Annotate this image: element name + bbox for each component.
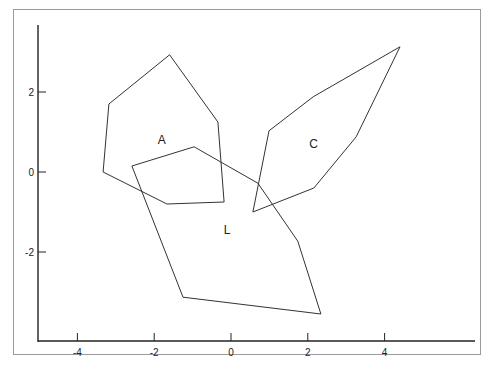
x-tick-label: 0 — [228, 347, 234, 358]
x-ticks: -4-2024 — [73, 333, 388, 358]
polygon-label-A: A — [158, 133, 166, 147]
y-tick-label: 2 — [28, 87, 34, 98]
y-tick-label: -2 — [25, 247, 34, 258]
x-tick-label: 2 — [305, 347, 311, 358]
polygon-label-L: L — [224, 223, 231, 237]
x-tick-label: -2 — [150, 347, 159, 358]
polygon-C — [253, 47, 400, 212]
x-tick-label: 4 — [382, 347, 388, 358]
x-tick-label: -4 — [73, 347, 82, 358]
polygon-chart: -4-2024 -202 A L C — [0, 0, 503, 383]
y-ticks: -202 — [25, 87, 46, 258]
polygon-A — [103, 55, 224, 204]
polygon-label-C: C — [309, 137, 318, 151]
y-tick-label: 0 — [28, 167, 34, 178]
